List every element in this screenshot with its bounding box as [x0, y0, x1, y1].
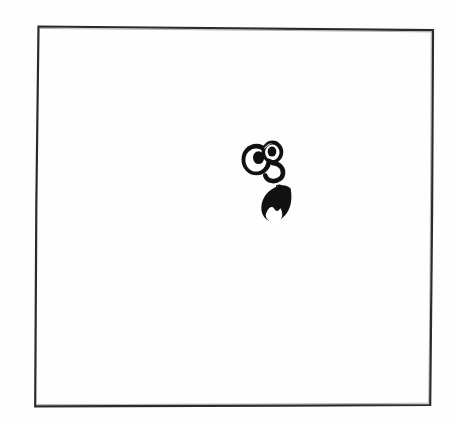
nose-bridge-stroke [269, 161, 273, 164]
screenshot-canvas: Cartoon face doodle inside hand-drawn fr… [0, 0, 454, 423]
paper-background [0, 0, 454, 423]
right-eye-pupil [268, 147, 277, 157]
right-eye-group [262, 141, 284, 164]
scanned-drawing-artboard [0, 0, 454, 423]
